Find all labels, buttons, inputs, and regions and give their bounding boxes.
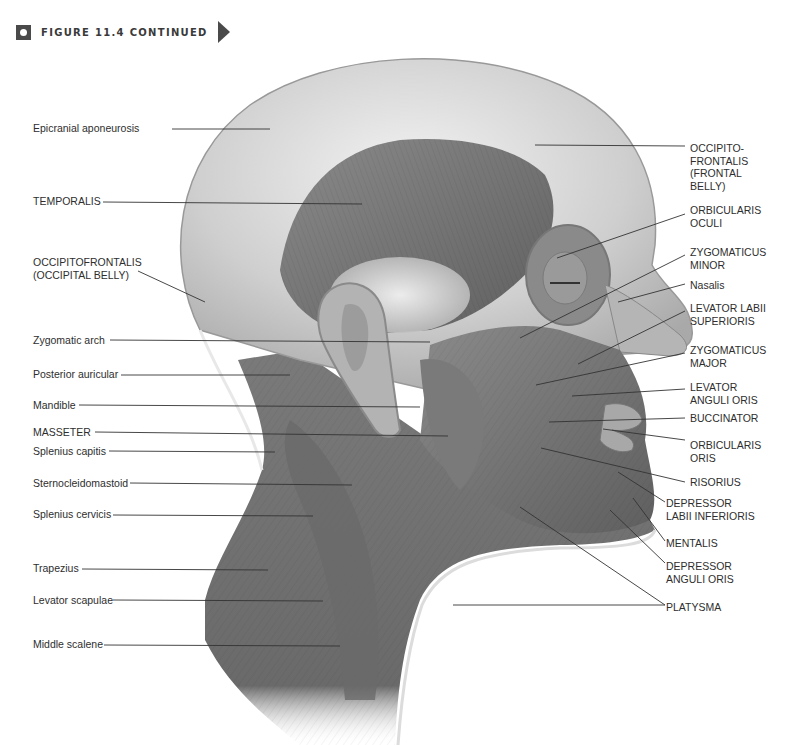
label-splenius-cervicis: Splenius cervicis <box>33 508 111 521</box>
label-zygomaticus-minor: ZYGOMATICUS MINOR <box>690 246 766 271</box>
label-temporalis: TEMPORALIS <box>33 195 101 208</box>
splenius-capitis-leader-line <box>109 451 275 452</box>
label-depressor-anguli-oris: DEPRESSOR ANGULI ORIS <box>666 560 734 585</box>
label-masseter: MASSETER <box>33 426 91 439</box>
label-levator-anguli-oris: LEVATOR ANGULI ORIS <box>690 381 758 406</box>
label-platysma: PLATYSMA <box>666 601 721 614</box>
label-occipito-frontalis-frontal-belly: OCCIPITO- FRONTALIS (FRONTAL BELLY) <box>690 142 748 192</box>
label-splenius-capitis: Splenius capitis <box>33 445 106 458</box>
label-levator-scapulae: Levator scapulae <box>33 594 113 607</box>
label-trapezius: Trapezius <box>33 562 79 575</box>
label-orbicularis-oris: ORBICULARIS ORIS <box>690 439 761 464</box>
label-buccinator: BUCCINATOR <box>690 412 758 425</box>
label-mandible: Mandible <box>33 399 76 412</box>
label-epicranial-aponeurosis: Epicranial aponeurosis <box>33 122 139 135</box>
label-risorius: RISORIUS <box>690 476 741 489</box>
label-occipitofrontalis-occipital-belly: OCCIPITOFRONTALIS (OCCIPITAL BELLY) <box>33 256 142 281</box>
label-levator-labii-superioris: LEVATOR LABII SUPERIORIS <box>690 302 766 327</box>
label-nasalis: Nasalis <box>690 279 724 292</box>
label-zygomatic-arch: Zygomatic arch <box>33 334 105 347</box>
label-sternocleidomastoid: Sternocleidomastoid <box>33 477 128 490</box>
label-mentalis: MENTALIS <box>666 537 718 550</box>
label-depressor-labii-inferioris: DEPRESSOR LABII INFERIORIS <box>666 497 755 522</box>
label-orbicularis-oculi: ORBICULARIS OCULI <box>690 204 761 229</box>
label-middle-scalene: Middle scalene <box>33 638 103 651</box>
label-posterior-auricular: Posterior auricular <box>33 368 118 381</box>
label-zygomaticus-major: ZYGOMATICUS MAJOR <box>690 344 766 369</box>
